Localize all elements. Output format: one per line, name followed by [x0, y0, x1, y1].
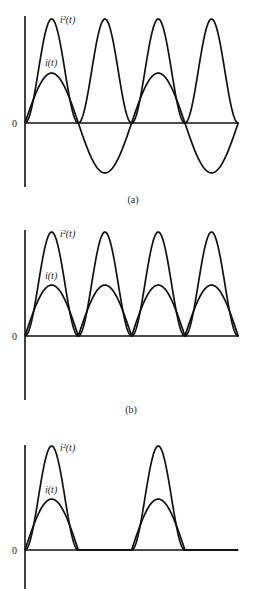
zero-label: 0 — [12, 118, 17, 129]
current-curve — [25, 499, 238, 550]
panel-a: 0 i²(t) i(t) (a) — [12, 14, 239, 206]
panel-c: 0 i²(t) i(t) — [12, 442, 238, 589]
panel-caption: (a) — [127, 194, 138, 206]
zero-label: 0 — [12, 331, 17, 342]
panel-caption: (b) — [125, 404, 137, 416]
current-curve — [25, 285, 238, 336]
current-label: i(t) — [45, 484, 58, 496]
current-squared-label: i²(t) — [60, 228, 76, 240]
current-squared-curve — [25, 232, 238, 336]
zero-label: 0 — [12, 545, 17, 556]
rectified-current-figure: 0 i²(t) i(t) (a) 0 i²(t) i(t) (b) 0 i²(t… — [0, 0, 254, 589]
current-squared-curve — [25, 19, 238, 123]
current-label: i(t) — [45, 270, 58, 282]
current-squared-label: i²(t) — [60, 14, 76, 26]
current-squared-label: i²(t) — [60, 442, 76, 454]
panel-b: 0 i²(t) i(t) (b) — [12, 228, 239, 416]
current-label: i(t) — [45, 57, 58, 69]
current-squared-curve — [25, 446, 238, 550]
